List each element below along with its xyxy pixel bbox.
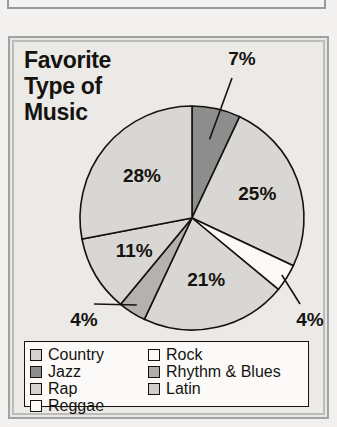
legend-label: Latin — [166, 381, 201, 397]
legend-label: Rhythm & Blues — [166, 364, 281, 380]
pie-chart-figure: Favorite Type of Music 7%25%4%21%4%11%28… — [8, 36, 329, 419]
pie-svg: 7%25%4%21%4%11%28% — [10, 38, 327, 338]
pie-slice-label: 4% — [70, 309, 98, 330]
pie-slice-label: 28% — [123, 165, 161, 186]
legend-swatch — [30, 383, 42, 395]
legend-item[interactable]: Rhythm & Blues — [148, 364, 303, 380]
legend-label: Rap — [48, 381, 77, 397]
legend-swatch — [148, 349, 160, 361]
pie-slice-label: 11% — [116, 240, 153, 261]
pie-slice-label: 21% — [187, 269, 225, 290]
legend-swatch — [30, 400, 42, 412]
legend-item[interactable]: Jazz — [30, 364, 148, 380]
legend-label: Reggae — [48, 398, 104, 414]
legend-item[interactable]: Rock — [148, 347, 303, 363]
legend-item[interactable]: Country — [30, 347, 148, 363]
legend-label: Jazz — [48, 364, 81, 380]
legend-item[interactable]: Latin — [148, 381, 303, 397]
chart-legend: CountryRockJazzRhythm & BluesRapLatinReg… — [24, 341, 309, 407]
pie-slice-label: 7% — [228, 48, 256, 69]
legend-label: Rock — [166, 347, 202, 363]
legend-swatch — [148, 383, 160, 395]
legend-swatch — [148, 366, 160, 378]
legend-swatch — [30, 349, 42, 361]
pie-slice-label: 25% — [238, 183, 276, 204]
pie-leader-line — [94, 304, 137, 305]
pie-slice-group — [80, 106, 304, 330]
legend-label: Country — [48, 347, 104, 363]
pie-chart-area: 7%25%4%21%4%11%28% — [10, 38, 327, 338]
cut-off-box-above — [7, 0, 326, 9]
legend-grid: CountryRockJazzRhythm & BluesRapLatinReg… — [30, 346, 303, 414]
legend-item[interactable]: Reggae — [30, 398, 148, 414]
pie-leader-line — [282, 275, 300, 304]
pie-slice-label: 4% — [296, 309, 324, 330]
legend-swatch — [30, 366, 42, 378]
legend-item[interactable]: Rap — [30, 381, 148, 397]
